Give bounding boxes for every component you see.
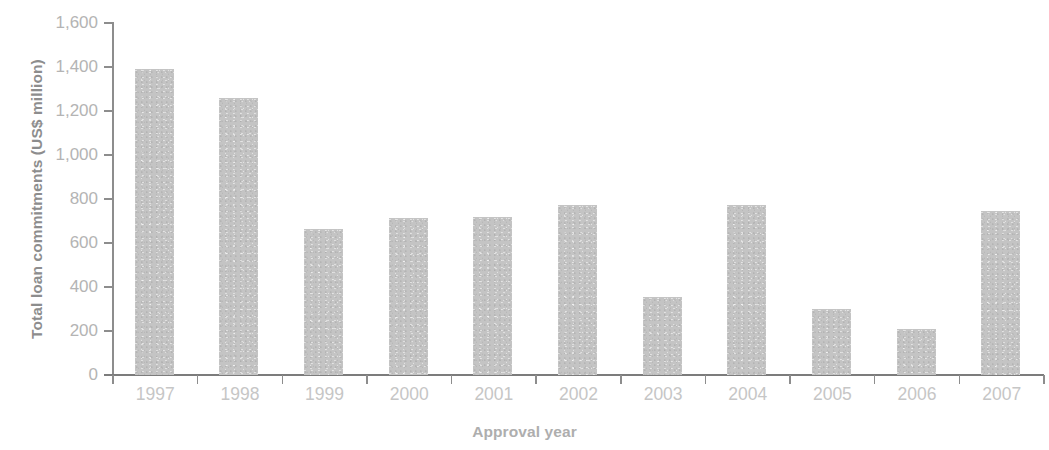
bar: [558, 205, 597, 376]
y-tick-label: 1,400: [26, 58, 98, 75]
x-tick-label: 2004: [705, 386, 790, 404]
x-axis-title: Approval year: [0, 423, 1049, 441]
x-axis-tick: [535, 375, 536, 384]
x-axis-tick: [197, 375, 198, 384]
x-tick-label: 1998: [198, 386, 283, 404]
x-axis-tick: [705, 375, 706, 384]
bar: [897, 329, 936, 375]
bar: [135, 69, 174, 375]
x-tick-label: 2005: [790, 386, 875, 404]
x-tick-label: 2002: [536, 386, 621, 404]
plot-area: [112, 23, 1044, 375]
bar: [812, 309, 851, 375]
y-tick-label: 1,600: [26, 14, 98, 31]
x-tick-label: 2003: [621, 386, 706, 404]
y-tick-label: 600: [26, 234, 98, 251]
y-tick-label: 0: [26, 366, 98, 383]
bar: [219, 98, 258, 375]
x-axis-tick: [366, 375, 367, 384]
bar: [304, 229, 343, 375]
x-axis-tick: [112, 375, 113, 384]
bar-chart: Total loan commitments (US$ million) 1,6…: [0, 0, 1049, 450]
bar: [389, 218, 428, 375]
y-tick-label: 200: [26, 322, 98, 339]
x-tick-label: 1999: [282, 386, 367, 404]
x-axis-tick: [959, 375, 960, 384]
y-tick-label: 1,200: [26, 102, 98, 119]
y-tick-label: 800: [26, 190, 98, 207]
y-tick-label: 400: [26, 278, 98, 295]
x-axis-tick: [620, 375, 621, 384]
x-axis-tick: [1043, 375, 1044, 384]
x-tick-label: 2001: [452, 386, 537, 404]
x-axis-tick: [789, 375, 790, 384]
y-tick-label: 1,000: [26, 146, 98, 163]
x-tick-label: 2000: [367, 386, 452, 404]
x-tick-label: 2006: [875, 386, 960, 404]
bar: [473, 217, 512, 375]
x-axis-tick: [282, 375, 283, 384]
x-axis-tick: [874, 375, 875, 384]
bar: [643, 297, 682, 375]
x-axis-tick: [451, 375, 452, 384]
x-tick-label: 1997: [113, 386, 198, 404]
x-tick-label: 2007: [959, 386, 1044, 404]
bar: [981, 211, 1020, 375]
bar: [727, 205, 766, 376]
